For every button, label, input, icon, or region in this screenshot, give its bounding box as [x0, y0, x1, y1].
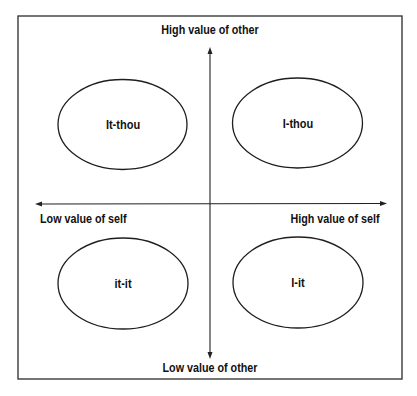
- arrow-left-icon: [35, 202, 42, 207]
- quadrant-label-it-thou: It-thou: [106, 119, 140, 132]
- axis-label-low-other: Low value of other: [158, 362, 261, 375]
- axis-label-low-self: Low value of self: [40, 213, 127, 226]
- arrow-down-icon: [208, 352, 213, 359]
- quadrant-label-it-it: it-it: [114, 278, 131, 291]
- diagram-canvas: [0, 0, 417, 396]
- quadrant-label-i-it: I-it: [291, 277, 304, 290]
- axis-label-high-other: High value of other: [158, 24, 261, 37]
- horizontal-axis: [40, 204, 382, 205]
- axis-label-high-self: High value of self: [290, 213, 379, 226]
- arrow-right-icon: [380, 201, 387, 206]
- quadrant-label-i-thou: I-thou: [283, 118, 314, 131]
- arrow-up-icon: [208, 47, 213, 54]
- quadrant-diagram: High value of other Low value of other L…: [0, 0, 417, 396]
